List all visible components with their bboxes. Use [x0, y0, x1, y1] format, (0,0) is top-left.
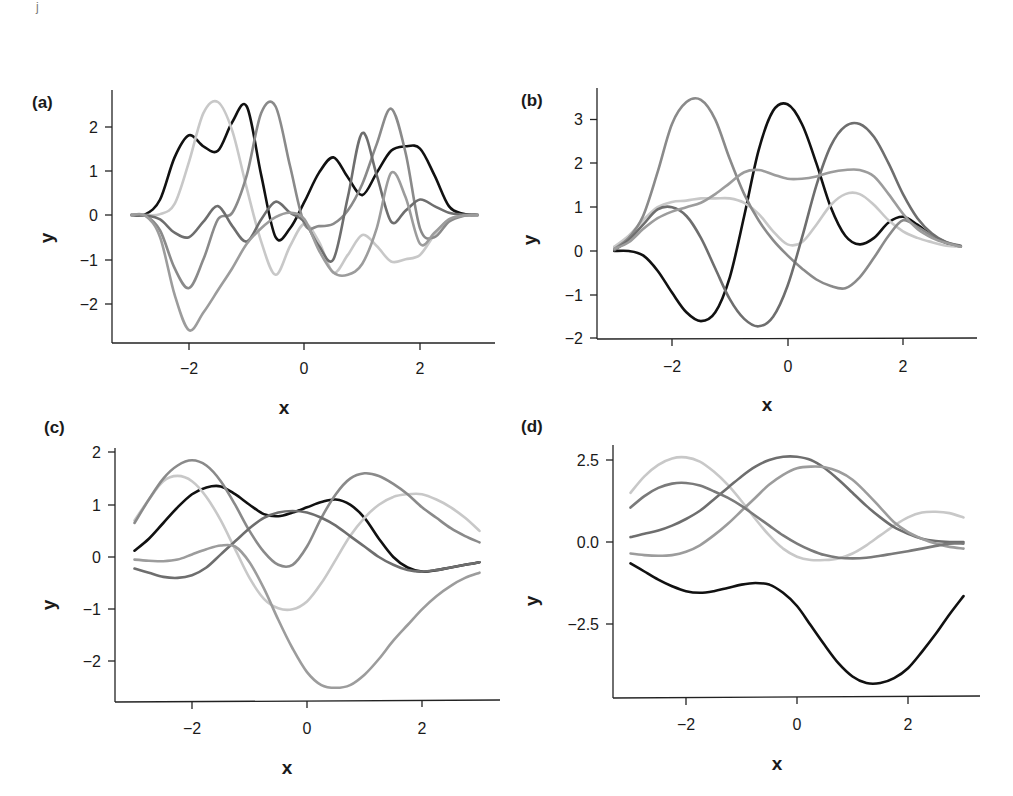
panel-a-ylabel: y [36, 232, 57, 243]
panel-c-x-axis: −2 0 2 x [115, 700, 500, 778]
panel-b-label: (b) [521, 91, 543, 110]
panel-b-ylabel: y [519, 234, 540, 245]
panel-b-ytick: 3 [574, 111, 583, 128]
panel-d-ylabel: y [521, 595, 542, 606]
panel-c-ytick: −1 [83, 601, 101, 618]
panel-d-curves [631, 456, 964, 683]
panel-a-ytick: −1 [80, 252, 98, 269]
panel-b-curves [614, 98, 961, 326]
panel-a-ytick: 1 [89, 163, 98, 180]
panel-b-ytick: 0 [574, 243, 583, 260]
panel-a-ytick: 2 [89, 119, 98, 136]
panel-b-ytick: −1 [565, 287, 583, 304]
panel-c-ytick: 2 [92, 444, 101, 461]
panel-d: (d) 2.5 0.0 −2.5 y −2 0 2 x [521, 417, 980, 774]
panel-b-xtick: −2 [663, 358, 681, 375]
panel-a-xtick: −2 [180, 360, 198, 377]
panel-a-xtick: 0 [300, 360, 309, 377]
panel-d-ytick: −2.5 [567, 616, 599, 633]
curve-c-series-1 [135, 486, 480, 572]
panel-b-xlabel: x [762, 394, 773, 415]
panel-d-xlabel: x [772, 753, 783, 774]
panel-a: (a) 2 1 0 −1 −2 y −2 0 2 x [32, 90, 495, 418]
panel-c: (c) 2 1 0 −1 −2 y −2 0 2 x [38, 418, 500, 778]
panel-b-ytick: 1 [574, 199, 583, 216]
panel-d-xtick: 2 [904, 716, 913, 733]
panel-b: (b) 3 2 1 0 −1 −2 y −2 0 2 x [519, 88, 977, 415]
panel-c-xlabel: x [282, 757, 293, 778]
panel-c-xtick: 2 [418, 720, 427, 737]
panel-c-ylabel: y [38, 599, 59, 610]
curve-a-series-2 [131, 101, 478, 275]
curve-d-series-1 [631, 563, 964, 683]
panel-a-ytick: 0 [89, 207, 98, 224]
panel-a-xlabel: x [279, 397, 290, 418]
panel-d-xtick: 0 [793, 716, 802, 733]
curve-b-series-4 [614, 123, 961, 326]
panel-c-ytick: 0 [92, 549, 101, 566]
panel-a-ytick: −2 [80, 296, 98, 313]
panel-a-label: (a) [32, 93, 53, 112]
panel-c-curves [135, 460, 480, 688]
panel-a-y-axis: 2 1 0 −1 −2 y [36, 90, 112, 343]
curve-b-series-5 [614, 169, 961, 248]
panel-d-ytick: 0.0 [577, 534, 599, 551]
curve-a-series-5 [131, 172, 478, 331]
panel-b-y-axis: 3 2 1 0 −1 −2 y [519, 88, 597, 347]
curve-c-series-2 [135, 476, 480, 610]
panel-d-ytick: 2.5 [577, 452, 599, 469]
panel-a-curves [131, 101, 478, 331]
panel-c-label: (c) [44, 418, 65, 437]
panel-b-ytick: −2 [565, 330, 583, 347]
panel-b-xtick: 2 [899, 358, 908, 375]
curve-c-series-5 [135, 545, 480, 688]
panel-c-ytick: 1 [92, 497, 101, 514]
panel-a-xtick: 2 [416, 360, 425, 377]
panel-b-xtick: 0 [784, 358, 793, 375]
panel-d-y-axis: 2.5 0.0 −2.5 y [521, 445, 613, 698]
panel-c-xtick: 0 [303, 720, 312, 737]
panel-b-ytick: 2 [574, 155, 583, 172]
curve-a-series-3 [131, 102, 478, 289]
panel-c-ytick: −2 [83, 653, 101, 670]
panel-d-label: (d) [521, 417, 543, 436]
panel-c-xtick: −2 [183, 720, 201, 737]
panel-c-y-axis: 2 1 0 −1 −2 y [38, 444, 115, 702]
panel-a-x-axis: −2 0 2 x [112, 343, 495, 418]
panel-b-x-axis: −2 0 2 x [597, 338, 977, 415]
figure: (a) 2 1 0 −1 −2 y −2 0 2 x (b) [0, 0, 1013, 796]
panel-d-x-axis: −2 0 2 x [613, 696, 980, 774]
panel-d-xtick: −2 [677, 716, 695, 733]
curve-b-series-3 [614, 98, 961, 288]
